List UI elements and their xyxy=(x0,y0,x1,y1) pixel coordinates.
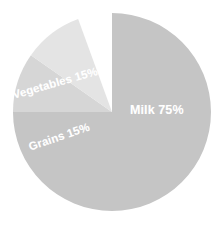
pie-slice-label-milk: Milk 75% xyxy=(130,103,184,117)
pie-chart-canvas xyxy=(0,0,224,230)
pie-chart: Milk 75% Vegetables 15% Grains 15% xyxy=(0,0,224,230)
